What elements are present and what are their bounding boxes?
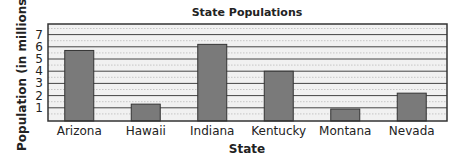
x-tick-label: Arizona xyxy=(57,124,102,138)
bar-hawaii xyxy=(131,104,160,121)
y-tick-label: 1 xyxy=(35,101,43,115)
bar-montana xyxy=(331,109,360,121)
y-tick-label: 4 xyxy=(35,64,43,78)
bar-indiana xyxy=(198,44,227,121)
x-tick-labels: ArizonaHawaiiIndianaKentuckyMontanaNevad… xyxy=(57,124,435,138)
y-tick-label: 7 xyxy=(35,28,43,42)
bar-nevada xyxy=(397,93,426,121)
chart-title: State Populations xyxy=(192,6,303,19)
y-tick-label: 2 xyxy=(35,89,43,103)
x-tick-label: Hawaii xyxy=(126,124,166,138)
bar-chart: State Populations 1234567 ArizonaHawaiiI… xyxy=(0,0,464,157)
x-axis-label: State xyxy=(229,142,265,156)
bar-arizona xyxy=(65,50,94,121)
x-tick-label: Kentucky xyxy=(251,124,306,138)
x-tick-label: Indiana xyxy=(190,124,234,138)
y-tick-label: 3 xyxy=(35,76,43,90)
y-tick-label: 5 xyxy=(35,52,43,66)
x-tick-label: Montana xyxy=(319,124,371,138)
y-tick-labels: 1234567 xyxy=(35,28,43,115)
y-axis-label: Population (in millions) xyxy=(15,0,29,151)
plot-area xyxy=(48,24,447,121)
y-tick-label: 6 xyxy=(35,40,43,54)
x-tick-label: Nevada xyxy=(389,124,435,138)
bar-kentucky xyxy=(264,71,293,121)
